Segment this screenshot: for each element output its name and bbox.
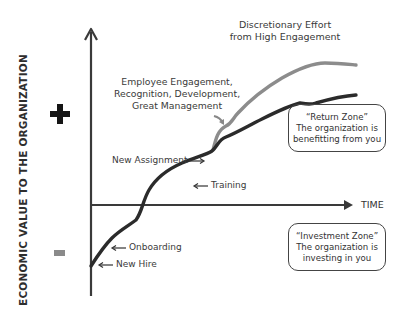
investment-zone-box: “Investment Zone” The organization is in… xyxy=(288,223,386,271)
minus-icon xyxy=(54,250,65,256)
training-label: Training xyxy=(211,180,247,191)
new-hire-arrow-icon xyxy=(99,263,113,268)
engagement-label: Employee Engagement, Recognition, Develo… xyxy=(114,76,240,112)
discretionary-effort-label: Discretionary Effort from High Engagemen… xyxy=(230,19,341,43)
new-hire-label: New Hire xyxy=(116,259,157,270)
onboarding-label: Onboarding xyxy=(129,242,182,253)
onboarding-arrow-icon xyxy=(112,246,126,251)
x-axis-label: TIME xyxy=(361,199,384,210)
plus-icon xyxy=(50,104,70,124)
diagram-canvas: ECONOMIC VALUE TO THE ORGANIZATION Discr… xyxy=(0,0,408,310)
y-axis-label: ECONOMIC VALUE TO THE ORGANIZATION xyxy=(17,54,29,306)
engagement-arrow-icon xyxy=(214,116,224,125)
training-arrow-icon xyxy=(194,184,208,189)
new-assignment-label: New Assignment xyxy=(112,155,187,166)
return-zone-box: “Return Zone” The organization is benefi… xyxy=(288,104,386,152)
x-axis-arrowhead-icon xyxy=(344,200,353,210)
